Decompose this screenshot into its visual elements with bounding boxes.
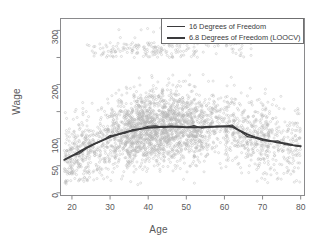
y-tick-label: 300 — [50, 30, 60, 48]
x-axis-title: Age — [0, 224, 317, 235]
y-tick-label: 0 — [50, 193, 60, 211]
legend: 16 Degrees of Freedom 6.8 Degrees of Fre… — [161, 18, 304, 44]
legend-line-icon — [166, 21, 186, 32]
legend-line-icon — [166, 32, 186, 43]
legend-item-16df: 16 Degrees of Freedom — [166, 21, 266, 32]
legend-item-loocv: 6.8 Degrees of Freedom (LOOCV) — [166, 32, 300, 43]
chart-figure: Wage Age 16 Degrees of Freedom 6.8 Degre… — [0, 0, 317, 249]
y-tick-label: 100 — [50, 139, 60, 157]
x-tick-label: 50 — [177, 202, 195, 212]
y-tick-label: 50 — [50, 166, 60, 184]
x-tick-label: 80 — [292, 202, 310, 212]
x-tick-label: 40 — [139, 202, 157, 212]
x-tick-label: 70 — [254, 202, 272, 212]
x-tick-label: 30 — [101, 202, 119, 212]
y-axis-title: Wage — [11, 72, 22, 132]
legend-label: 6.8 Degrees of Freedom (LOOCV) — [189, 33, 300, 42]
y-tick-label: 200 — [50, 85, 60, 103]
x-tick-label: 60 — [215, 202, 233, 212]
legend-label: 16 Degrees of Freedom — [189, 22, 266, 31]
x-tick-label: 20 — [63, 202, 81, 212]
